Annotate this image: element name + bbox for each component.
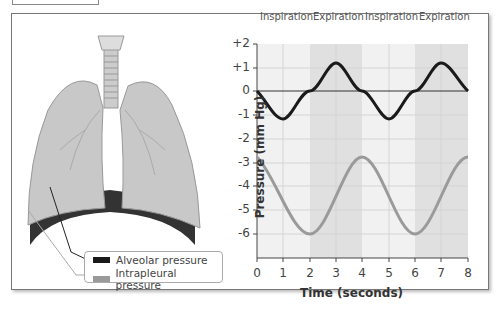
x-tick: 3 [329, 266, 343, 280]
lungs-illustration [28, 36, 200, 275]
phase-label: Inspiration [365, 11, 418, 22]
x-axis-label: Time (seconds) [300, 286, 403, 300]
x-tick: 0 [250, 266, 264, 280]
x-tick: 1 [276, 266, 290, 280]
legend: Alveolar pressure Intrapleural pressure [84, 251, 223, 283]
y-axis-label: Pressure (mm Hg) [253, 87, 267, 227]
x-tick: 2 [303, 266, 317, 280]
x-tick: 7 [434, 266, 448, 280]
x-tick: 6 [408, 266, 422, 280]
x-tick: 5 [382, 266, 396, 280]
phase-label: Expiration [313, 11, 364, 22]
y-tick: -1 [224, 107, 250, 121]
legend-label: Alveolar pressure [116, 254, 208, 266]
phase-bands [257, 44, 468, 258]
y-tick: -4 [224, 178, 250, 192]
legend-item-alveolar: Alveolar pressure [93, 254, 208, 266]
x-tick: 8 [461, 266, 475, 280]
y-tick: -3 [224, 155, 250, 169]
y-tick: +2 [224, 36, 250, 50]
y-tick: +1 [224, 60, 250, 74]
y-tick: -6 [224, 226, 250, 240]
legend-swatch [93, 257, 110, 263]
legend-swatch [93, 276, 110, 282]
y-tick: 0 [224, 83, 250, 97]
phase-label: Inspiration [260, 11, 313, 22]
x-tick: 4 [355, 266, 369, 280]
y-tick: -5 [224, 202, 250, 216]
legend-label: Intrapleural pressure [116, 267, 223, 291]
legend-item-intrapleural: Intrapleural pressure [93, 267, 222, 291]
phase-label: Expiration [419, 11, 470, 22]
y-tick: -2 [224, 131, 250, 145]
